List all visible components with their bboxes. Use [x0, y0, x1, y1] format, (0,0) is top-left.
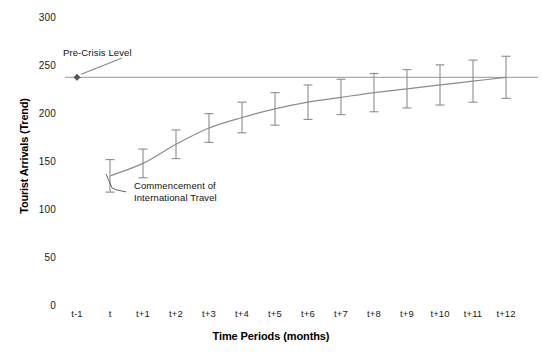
- x-tick-tplus12: t+12: [486, 308, 526, 319]
- annotation-commencement: Commencement of International Travel: [134, 180, 217, 204]
- pre-crisis-leader-line: [81, 58, 122, 74]
- y-axis-title: Tourist Arrivals (Trend): [18, 56, 30, 256]
- y-tick-300: 300: [22, 12, 56, 23]
- chart-container: 300 250 200 150 100 50 0 Tourist Arrival…: [0, 0, 542, 360]
- annotation-commencement-line2: International Travel: [134, 192, 217, 204]
- pre-crisis-marker: [74, 74, 80, 80]
- y-tick-0: 0: [22, 300, 56, 311]
- commencement-leader-line: [106, 174, 126, 192]
- annotation-commencement-line1: Commencement of: [134, 180, 217, 192]
- x-axis-title: Time Periods (months): [0, 330, 542, 342]
- annotation-pre-crisis-level: Pre-Crisis Level: [63, 47, 132, 59]
